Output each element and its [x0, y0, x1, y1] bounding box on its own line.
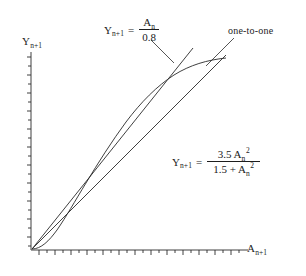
function-plot-figure: Yn+1 An+1 one-to-one Yn+1 = An 0.8 Yn+1 …: [0, 0, 306, 276]
curve-equation-denominator: 1.5 + An2: [207, 162, 259, 175]
linear-equation-numerator: An: [140, 16, 158, 29]
leader-line-linear: [151, 40, 174, 63]
leader-line-one-to-one: [206, 38, 234, 66]
linear-equation-annotation: Yn+1 = An 0.8: [104, 16, 159, 43]
curve-equation-numerator-base: 3.5 A: [218, 148, 242, 160]
linear-equation-lhs: Yn+1: [104, 24, 124, 36]
x-axis-label: An+1: [247, 243, 267, 254]
curve-equation-numerator: 3.5 An2: [212, 148, 255, 161]
curve-equation-numerator-subscript: n: [242, 154, 246, 163]
x-axis: [31, 250, 248, 255]
linear-equation-numerator-base: A: [143, 16, 151, 28]
linear-equation-lhs-base: Y: [104, 24, 112, 36]
y-axis-label: Yn+1: [22, 36, 42, 47]
x-axis-label-subscript: n+1: [255, 248, 267, 257]
curve-equation-denominator-base: 1.5 + A: [213, 163, 246, 175]
linear-equation-lhs-subscript: n+1: [112, 29, 124, 38]
curve-equation-equals: =: [196, 156, 202, 168]
curve-equation-lhs: Yn+1: [172, 156, 192, 168]
curve-equation-lhs-base: Y: [172, 156, 180, 168]
curve-equation-lhs-subscript: n+1: [180, 161, 192, 170]
y-axis: [27, 52, 31, 250]
y-axis-label-subscript: n+1: [30, 41, 42, 50]
curve-equation-numerator-superscript: 2: [246, 146, 250, 155]
curve-equation-fraction: 3.5 An2 1.5 + An2: [207, 148, 259, 175]
y-axis-label-base: Y: [22, 35, 30, 47]
linear-equation-fraction: An 0.8: [139, 16, 159, 43]
one-to-one-annotation: one-to-one: [228, 26, 273, 36]
curve-equation-denominator-superscript: 2: [250, 161, 254, 170]
x-axis-label-base: A: [247, 242, 255, 254]
curve-equation-annotation: Yn+1 = 3.5 An2 1.5 + An2: [172, 148, 260, 175]
linear-equation-numerator-subscript: n: [151, 22, 155, 31]
linear-equation-denominator: 0.8: [139, 30, 159, 43]
linear-equation-equals: =: [128, 24, 134, 36]
